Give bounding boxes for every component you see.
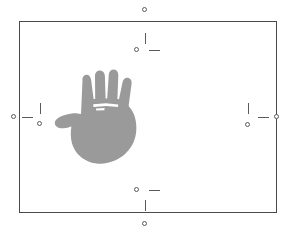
figure-canvas — [0, 0, 289, 234]
hand-silhouette — [0, 0, 289, 234]
hand-path — [55, 69, 137, 163]
hand-shape-group — [55, 69, 137, 163]
